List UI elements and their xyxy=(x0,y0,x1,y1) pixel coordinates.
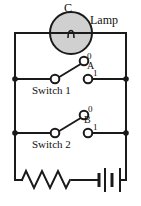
junction-dot-left-switch1 xyxy=(12,76,18,82)
switch2-terminal-1[interactable] xyxy=(84,129,93,138)
switch1-terminal-1-label: 1 xyxy=(93,69,98,78)
battery-symbol xyxy=(96,168,126,192)
junction-dot-right-switch2 xyxy=(123,130,129,136)
switch1-lever xyxy=(56,62,84,79)
junction-dot-left-switch2 xyxy=(12,130,18,136)
circuit-diagram: C Lamp 0 A 1 Switch 1 0 B 1 Switch 2 xyxy=(0,0,141,206)
junction-dot-right-switch1 xyxy=(123,76,129,82)
switch2-terminal-1-label: 1 xyxy=(93,123,98,132)
switch2-lever xyxy=(56,116,84,133)
lamp-name-label: Lamp xyxy=(90,14,118,26)
circuit-schematic-canvas xyxy=(0,0,141,206)
switch2-pole-label: B xyxy=(84,115,91,125)
resistor-zigzag xyxy=(22,171,70,188)
switch1-name-label: Switch 1 xyxy=(32,85,71,96)
switch1-terminal-1[interactable] xyxy=(84,75,93,84)
switch2-terminal-0-label: 0 xyxy=(88,105,93,114)
switch2-pole-pivot[interactable] xyxy=(51,129,60,138)
switch1-pole-pivot[interactable] xyxy=(51,75,60,84)
switch2-name-label: Switch 2 xyxy=(32,139,71,150)
lamp-node-label: C xyxy=(64,2,72,14)
